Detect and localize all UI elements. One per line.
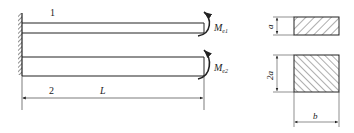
beam-1-label: 1 — [50, 7, 55, 18]
fixed-wall — [18, 13, 22, 76]
section-2-height-label: 2a — [265, 71, 275, 81]
section-1-height-label: a — [265, 24, 275, 29]
beam-2 — [22, 57, 204, 76]
cross-section-1 — [273, 17, 339, 35]
moment-label-1: Me1 — [213, 22, 228, 34]
section-2-width-label: b — [313, 111, 318, 121]
length-label: L — [99, 85, 106, 96]
moment-label-2: Me2 — [213, 62, 228, 74]
cross-section-2 — [273, 55, 339, 127]
beam-2-label: 2 — [49, 85, 54, 96]
beam-1 — [22, 23, 204, 33]
beam-diagram: 1 Me1 Me2 2 L a 2a b — [0, 0, 354, 133]
